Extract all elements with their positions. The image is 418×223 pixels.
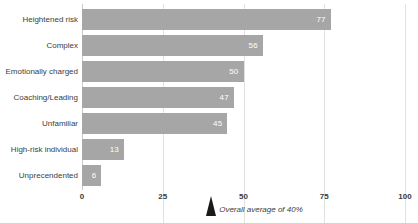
overall-average-marker (206, 196, 216, 216)
category-label-wrap: Emotionally charged (0, 61, 78, 82)
bar: 56 (82, 35, 263, 56)
x-tick-25: 25 (158, 192, 167, 201)
bar-row: Unprecendented6 (0, 165, 418, 186)
category-label: Coaching/Leading (0, 87, 78, 108)
bar-value-label: 45 (213, 113, 222, 134)
category-label: Unprecendented (0, 165, 78, 186)
bar: 50 (82, 61, 244, 82)
bar-value-label: 47 (219, 87, 228, 108)
x-tick-0: 0 (80, 192, 84, 201)
x-tick-50: 50 (239, 192, 248, 201)
bar-chart: Heightened risk77Complex56Emotionally ch… (0, 0, 418, 223)
category-label-wrap: Coaching/Leading (0, 87, 78, 108)
bar: 45 (82, 113, 227, 134)
bar-value-label: 6 (92, 165, 97, 186)
category-label-wrap: Heightened risk (0, 9, 78, 30)
bar: 13 (82, 139, 124, 160)
category-label: Unfamiliar (0, 113, 78, 134)
category-label: Complex (0, 35, 78, 56)
bar-row: High-risk individual13 (0, 139, 418, 160)
overall-average-label: Overall average of 40% (219, 205, 303, 214)
bar: 77 (82, 9, 331, 30)
category-label-wrap: Complex (0, 35, 78, 56)
bar-row: Complex56 (0, 35, 418, 56)
bar-row: Heightened risk77 (0, 9, 418, 30)
bar-row: Unfamiliar45 (0, 113, 418, 134)
category-label: High-risk individual (0, 139, 78, 160)
bar-value-label: 13 (110, 139, 119, 160)
bar-value-label: 77 (316, 9, 325, 30)
x-tick-100: 100 (398, 192, 411, 201)
category-label-wrap: High-risk individual (0, 139, 78, 160)
category-label: Heightened risk (0, 9, 78, 30)
bar-row: Coaching/Leading47 (0, 87, 418, 108)
category-label-wrap: Unprecendented (0, 165, 78, 186)
bar-value-label: 50 (229, 61, 238, 82)
category-label-wrap: Unfamiliar (0, 113, 78, 134)
bar: 6 (82, 165, 101, 186)
bar-row: Emotionally charged50 (0, 61, 418, 82)
category-label: Emotionally charged (0, 61, 78, 82)
x-tick-75: 75 (320, 192, 329, 201)
bar-value-label: 56 (249, 35, 258, 56)
bar: 47 (82, 87, 234, 108)
